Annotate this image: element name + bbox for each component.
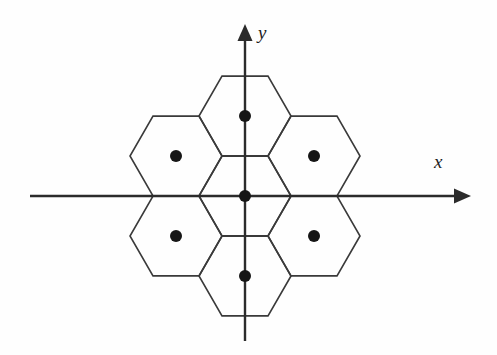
hexagonal-lattice-figure: y x (0, 0, 497, 355)
y-axis-label: y (258, 23, 266, 42)
lattice-point-north (239, 110, 251, 122)
lattice-point-south-west (170, 230, 182, 242)
lattice-point-center (239, 190, 251, 202)
lattice-point-south (239, 270, 251, 282)
lattice-point-south-east (308, 230, 320, 242)
x-axis-label: x (434, 152, 442, 171)
y-axis-arrowhead-icon (238, 24, 253, 41)
axes-group (30, 24, 471, 341)
lattice-point-north-east (308, 150, 320, 162)
figure-canvas (0, 0, 497, 355)
x-axis-arrowhead-icon (454, 189, 471, 204)
lattice-point-north-west (170, 150, 182, 162)
